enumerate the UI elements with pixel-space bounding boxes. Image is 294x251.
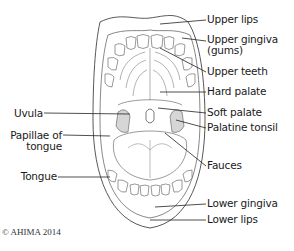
label-fauces: Fauces	[207, 160, 242, 171]
label-lower-gingiva: Lower gingiva	[207, 198, 278, 209]
soft-palate	[118, 100, 182, 105]
label-papillae-sub: tongue	[26, 141, 62, 152]
label-upper-gingiva-sub: (gums)	[207, 45, 243, 56]
palatine-tonsil-left	[116, 110, 130, 133]
label-hard-palate: Hard palate	[207, 86, 266, 97]
label-upper-teeth: Upper teeth	[207, 66, 268, 77]
uvula-icon	[146, 109, 154, 123]
palatine-tonsil-right	[170, 110, 184, 133]
label-uvula: Uvula	[14, 108, 43, 119]
label-soft-palate: Soft palate	[207, 107, 262, 118]
label-lower-lips: Lower lips	[207, 214, 258, 225]
label-upper-lips: Upper lips	[207, 14, 258, 25]
label-tongue: Tongue	[21, 171, 57, 182]
label-palatine-tonsil: Palatine tonsil	[207, 122, 278, 133]
copyright-text: © AHIMA 2014	[2, 227, 61, 237]
